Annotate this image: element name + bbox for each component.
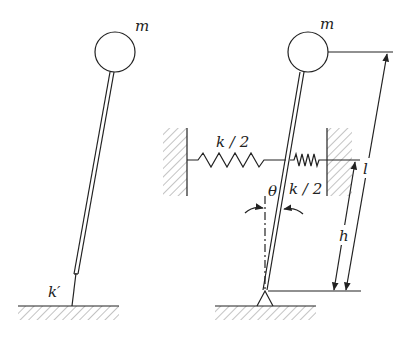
spring-left-label: k / 2	[216, 133, 249, 151]
left-spring-label: k′	[48, 283, 61, 301]
left-rod	[74, 72, 114, 274]
right-wall	[327, 128, 352, 196]
left-flex-spring	[72, 273, 76, 306]
length-label: l	[363, 160, 368, 178]
left-mass-label: m	[135, 17, 149, 35]
theta-arrow-left	[245, 208, 263, 213]
spring-left	[187, 153, 286, 167]
left-mass	[95, 32, 135, 72]
left-ground	[18, 306, 119, 320]
left-wall	[163, 128, 187, 196]
height-label: h	[339, 227, 349, 245]
left-figure	[18, 32, 135, 320]
right-mass	[288, 32, 328, 72]
pivot-support	[257, 291, 273, 306]
right-ground	[215, 306, 316, 320]
angle-label: θ	[268, 182, 277, 200]
right-figure	[163, 32, 393, 320]
pendulum-diagram: m k′	[0, 0, 409, 352]
spring-right-label: k / 2	[289, 180, 322, 198]
right-mass-label: m	[320, 15, 334, 33]
theta-arrow-right	[284, 209, 303, 214]
